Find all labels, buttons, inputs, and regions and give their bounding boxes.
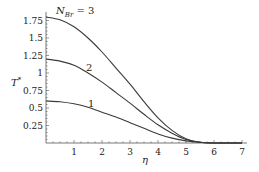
curves	[46, 17, 242, 143]
y-tick-label: 1	[37, 68, 43, 78]
curve-label-nbr3: NBr = 3	[55, 5, 94, 19]
x-tick-label: 3	[127, 147, 133, 157]
y-tick-label: 1.25	[23, 51, 43, 61]
curve-label-1: 1	[88, 98, 94, 109]
y-tick-label: 0.25	[23, 121, 43, 131]
curve-label-2: 2	[86, 62, 92, 73]
x-axis-label: η	[142, 154, 148, 165]
curve-nbr-3	[46, 17, 242, 143]
y-axis-label: T*	[11, 76, 22, 88]
axes: 12345670.250.50.7511.251.51.75	[23, 12, 247, 157]
chart-container: 12345670.250.50.7511.251.51.75 T* η NBr …	[0, 0, 259, 172]
x-tick-label: 6	[211, 147, 217, 157]
y-tick-label: 1.75	[23, 16, 43, 26]
y-tick-label: 0.75	[23, 86, 43, 96]
x-tick-label: 2	[99, 147, 105, 157]
curve-nbr-1	[46, 101, 242, 143]
y-tick-label: 0.5	[29, 103, 44, 113]
x-tick-label: 4	[155, 147, 161, 157]
x-tick-label: 7	[239, 147, 245, 157]
chart-svg: 12345670.250.50.7511.251.51.75 T* η NBr …	[0, 0, 259, 172]
y-tick-label: 1.5	[29, 33, 44, 43]
x-tick-label: 5	[183, 147, 189, 157]
x-tick-label: 1	[71, 147, 77, 157]
